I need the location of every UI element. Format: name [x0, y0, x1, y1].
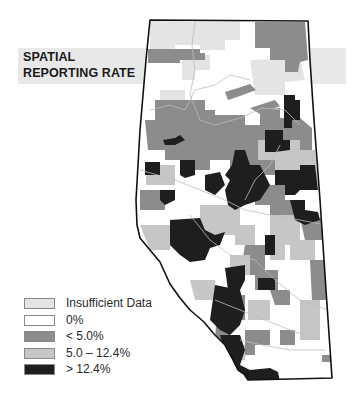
title-line-1: SPATIAL	[23, 50, 135, 66]
title-line-2: REPORTING RATE	[23, 66, 135, 82]
legend-label: < 5.0%	[66, 329, 104, 343]
legend-swatch-insufficient	[24, 298, 55, 309]
legend-label: 5.0 – 12.4%	[66, 346, 130, 360]
legend-swatch-low	[24, 331, 55, 342]
legend-swatch-mid	[24, 348, 55, 359]
legend-swatch-zero	[24, 315, 55, 326]
legend-label: 0%	[66, 313, 83, 327]
legend-swatch-high	[24, 364, 55, 375]
legend-label: > 12.4%	[66, 362, 110, 376]
map-title: SPATIAL REPORTING RATE	[23, 50, 135, 81]
map-regions	[130, 15, 340, 385]
legend-label: Insufficient Data	[66, 296, 152, 310]
